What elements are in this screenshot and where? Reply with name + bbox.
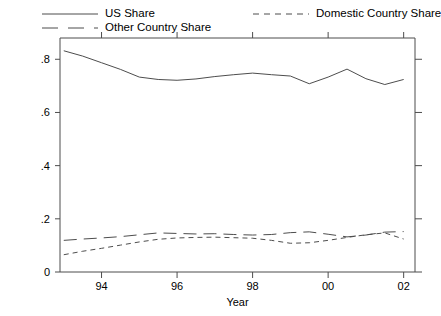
y-tick-label: .6 <box>41 106 50 118</box>
x-tick-label: 02 <box>398 280 410 292</box>
y-tick-label: .8 <box>41 53 50 65</box>
x-tick-label: 00 <box>322 280 334 292</box>
x-tick-label: 96 <box>171 280 183 292</box>
y-tick-label: .2 <box>41 213 50 225</box>
series-line-domestic-country-share <box>64 233 404 255</box>
x-tick-label: 98 <box>246 280 258 292</box>
x-tick-label: 94 <box>95 280 107 292</box>
series-line-other-country-share <box>64 232 404 241</box>
x-axis-title: Year <box>226 296 249 308</box>
y-tick-label: .4 <box>41 160 50 172</box>
series-line-us-share <box>64 51 404 85</box>
y-tick-label: 0 <box>44 266 50 278</box>
